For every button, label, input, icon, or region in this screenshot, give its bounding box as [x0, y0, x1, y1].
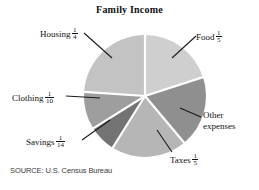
- slice-label-housing: Housing14: [40, 27, 78, 41]
- slice-label-food-text: Food: [196, 32, 215, 42]
- leader-line-housing: [84, 33, 112, 58]
- slice-label-savings: Savings114: [26, 135, 65, 149]
- slice-label-savings-text: Savings: [26, 137, 55, 147]
- slice-label-taxes-text: Taxes: [170, 155, 191, 165]
- pie-slice-housing[interactable]: [84, 35, 145, 96]
- slice-fraction-housing: 14: [72, 27, 78, 41]
- chart-source-note: SOURCE: U.S. Census Bureau: [10, 166, 112, 175]
- slice-label-clothing-text: Clothing: [12, 93, 44, 103]
- pie-chart-figure: Family Income: [0, 0, 259, 190]
- slice-fraction-food: 15: [216, 30, 222, 44]
- slice-fraction-savings: 114: [56, 135, 65, 149]
- slice-fraction-clothing: 110: [45, 91, 54, 105]
- slice-label-food: Food15: [196, 30, 222, 44]
- slice-label-other-line2: expenses: [203, 121, 236, 131]
- slice-fraction-taxes: 15: [192, 153, 198, 167]
- slice-label-taxes: Taxes15: [170, 153, 198, 167]
- slice-label-other-expenses: Other expenses: [203, 110, 255, 132]
- slice-label-other-line1: Other: [203, 110, 224, 120]
- slice-label-housing-text: Housing: [40, 29, 71, 39]
- slice-label-clothing: Clothing110: [12, 91, 54, 105]
